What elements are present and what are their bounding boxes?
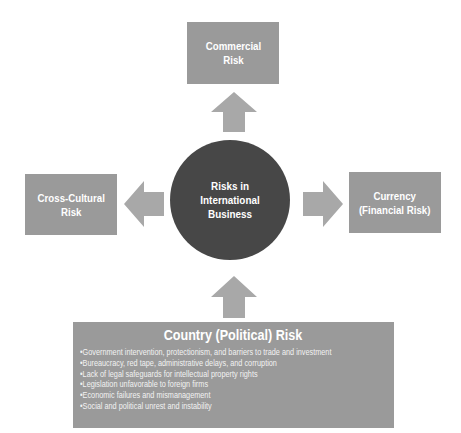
risks-in-international-business-hub: Risks in International Business: [170, 140, 290, 260]
arrow-left-icon: [124, 181, 164, 227]
country-risk-title: Country (Political) Risk: [95, 326, 370, 344]
hub-label: Risks in International Business: [200, 179, 259, 221]
list-item: Bureaucracy, red tape, administrative de…: [80, 358, 340, 369]
country-risk-list: Government intervention, protectionism, …: [80, 347, 386, 412]
commercial-risk-label: Commercial Risk: [205, 39, 260, 67]
list-item: Legislation unfavorable to foreign firms: [80, 379, 340, 390]
list-item: Economic failures and mismanagement: [80, 390, 340, 401]
country-political-risk-box: Country (Political) Risk Government inte…: [73, 322, 394, 428]
arrow-up-icon: [211, 92, 257, 132]
cross-cultural-risk-box: Cross-Cultural Risk: [25, 174, 117, 235]
cross-cultural-risk-label: Cross-Cultural Risk: [37, 191, 104, 219]
commercial-risk-box: Commercial Risk: [187, 22, 279, 84]
arrow-right-icon: [303, 181, 343, 227]
list-item: Social and political unrest and instabil…: [80, 401, 340, 412]
currency-risk-box: Currency (Financial Risk): [349, 172, 441, 233]
arrow-up-icon: [211, 276, 257, 318]
list-item: Lack of legal safeguards for intellectua…: [80, 369, 340, 380]
list-item: Government intervention, protectionism, …: [80, 347, 340, 358]
currency-risk-label: Currency (Financial Risk): [359, 189, 431, 217]
